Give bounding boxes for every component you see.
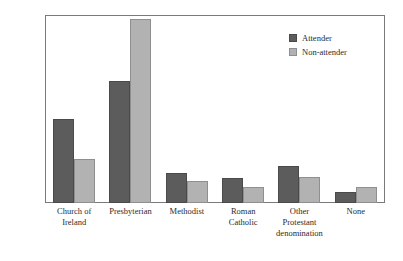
bar-attender <box>278 166 299 203</box>
bar-attender <box>222 178 243 203</box>
x-axis-category-label-line: None <box>318 206 394 217</box>
x-axis-category-label-line: Protestant <box>261 217 337 228</box>
bar-non-attender <box>356 187 377 203</box>
legend: Attender Non-attender <box>289 31 381 59</box>
x-axis: Church ofIrelandPresbyterianMethodistRom… <box>46 206 384 261</box>
bar-group <box>102 16 158 203</box>
bar-non-attender <box>299 177 320 203</box>
bar-attender <box>335 192 356 203</box>
legend-item-attender: Attender <box>289 31 381 44</box>
legend-label-non-attender: Non-attender <box>302 47 347 57</box>
bar-non-attender <box>74 159 95 203</box>
x-axis-category-label-line: denomination <box>261 228 337 239</box>
bar-non-attender <box>243 187 264 203</box>
legend-item-non-attender: Non-attender <box>289 45 381 58</box>
bar-chart-figure: 0%10%20%30%40%50%60% Church ofIrelandPre… <box>0 0 403 261</box>
bar-non-attender <box>187 181 208 203</box>
bar-group <box>215 16 271 203</box>
non-attender-swatch <box>289 48 297 56</box>
bar-group <box>46 16 102 203</box>
attender-swatch <box>289 34 297 42</box>
bar-attender <box>109 81 130 203</box>
x-axis-category-label: None <box>318 206 394 217</box>
bar-attender <box>53 119 74 203</box>
bar-non-attender <box>130 19 151 203</box>
x-axis-category-label-line: Ireland <box>36 217 112 228</box>
bar-attender <box>166 173 187 203</box>
legend-label-attender: Attender <box>302 33 332 43</box>
bar-group <box>159 16 215 203</box>
